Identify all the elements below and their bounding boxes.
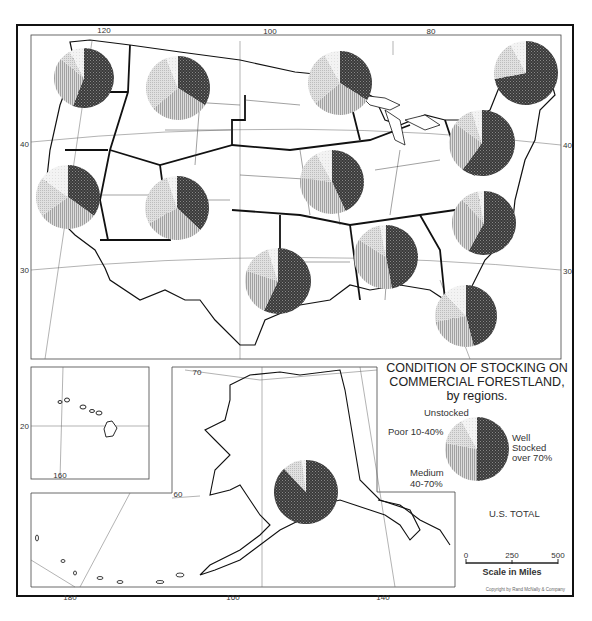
lon-label-160: 160: [226, 593, 240, 602]
pie-alaska: [274, 460, 338, 524]
scale-label: Scale in Miles: [482, 567, 541, 577]
legend-medium-label-1: Medium: [410, 467, 444, 478]
pie-pacific-northwest: [54, 48, 114, 108]
legend-well-label-3: over 70%: [512, 452, 553, 463]
hawaii-lat-label: 20: [20, 422, 29, 431]
pie-u-s-total: [445, 417, 509, 481]
lon-label-140: 140: [376, 593, 390, 602]
lat-label-right-40: 40: [563, 141, 572, 150]
map-title-line1: CONDITION OF STOCKING ON: [386, 361, 568, 375]
legend-medium-label-2: 40-70%: [410, 478, 443, 489]
us-total-label: U.S. TOTAL: [489, 508, 540, 519]
map-title-line3: by regions.: [446, 389, 507, 403]
pie-lake-states: [308, 51, 372, 115]
lon-label-120: 120: [97, 26, 111, 35]
pie-southern-rocky-mountain: [145, 176, 209, 240]
lat-label-left-30: 30: [20, 266, 29, 275]
pie-northern-rocky-mountain: [146, 56, 210, 120]
lon-label-100: 100: [263, 27, 277, 36]
pie-california: [36, 165, 100, 229]
pie-middle-atlantic: [449, 110, 515, 176]
lon-label-80: 80: [427, 27, 436, 36]
pie-south-atlantic: [452, 191, 516, 255]
alaska-lat-label-70: 70: [193, 368, 202, 377]
scale-tick-250: 250: [505, 551, 519, 560]
pie-central: [300, 150, 364, 214]
legend-poor-label: Poor 10-40%: [388, 426, 444, 437]
lon-label-180: 180: [63, 593, 77, 602]
pie-southeast: [435, 285, 497, 347]
pie-central-south: [354, 225, 418, 289]
forest-stocking-map: CONDITION OF STOCKING ON COMMERCIAL FORE…: [0, 0, 592, 621]
hawaii-lon-label: 160: [53, 471, 67, 480]
lat-label-right-30: 30: [563, 267, 572, 276]
copyright-notice: Copyright by Rand McNally & Company: [486, 587, 566, 592]
scale-tick-0: 0: [464, 551, 469, 560]
pie-west-gulf: [245, 248, 311, 314]
legend-unstocked-label: Unstocked: [424, 407, 469, 418]
alaska-lat-label-60: 60: [174, 490, 183, 499]
pie-new-england: [494, 41, 558, 105]
lat-label-left-40: 40: [20, 140, 29, 149]
map-title-line2: COMMERCIAL FORESTLAND,: [389, 375, 564, 389]
scale-tick-500: 500: [551, 551, 565, 560]
